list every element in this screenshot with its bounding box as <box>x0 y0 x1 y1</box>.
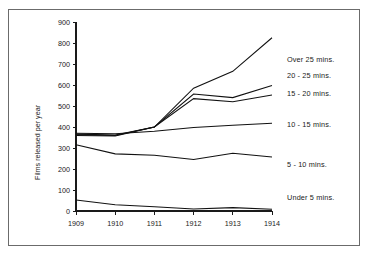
y-tick-label: 700 <box>58 60 70 69</box>
series-line <box>76 85 272 135</box>
legend-item-1: Over 25 mins. <box>287 55 334 64</box>
x-axis-group: 190919101911191219131914 <box>68 211 280 228</box>
y-tick-label: 0 <box>66 207 70 216</box>
x-tick-label: 1910 <box>107 219 123 228</box>
legend-item-2: 20 - 25 mins. <box>287 71 331 80</box>
y-tick-label: 100 <box>58 186 70 195</box>
series-line <box>76 123 272 134</box>
legend-item-6: Under 5 mins. <box>287 193 334 202</box>
legend-item-4: 10 - 15 mins. <box>287 120 331 129</box>
y-tick-label: 400 <box>58 123 70 132</box>
y-axis-title: Films released per year <box>33 104 42 180</box>
y-tick-label: 200 <box>58 165 70 174</box>
y-tick-label: 300 <box>58 144 70 153</box>
series-line <box>76 145 272 160</box>
x-tick-label: 1914 <box>264 219 280 228</box>
data-series-group <box>76 38 272 210</box>
legend-item-3: 15 - 20 mins. <box>287 89 331 98</box>
y-tick-label: 500 <box>58 102 70 111</box>
x-tick-label: 1913 <box>225 219 241 228</box>
y-tick-label: 800 <box>58 39 70 48</box>
y-tick-label: 600 <box>58 81 70 90</box>
x-axis-tick-labels: 190919101911191219131914 <box>68 219 280 228</box>
x-axis-ticks <box>76 211 272 215</box>
y-axis-tick-labels: 0100200300400500600700800900 <box>58 18 70 216</box>
series-line <box>76 200 272 209</box>
x-tick-label: 1912 <box>186 219 202 228</box>
y-tick-label: 900 <box>58 18 70 27</box>
y-axis-group: 0100200300400500600700800900 <box>58 18 76 216</box>
x-tick-label: 1911 <box>147 219 162 228</box>
x-tick-label: 1909 <box>68 219 84 228</box>
series-line <box>76 38 272 136</box>
chart-figure: 0100200300400500600700800900 19091910191… <box>0 0 372 256</box>
legend-item-5: 5 - 10 mins. <box>287 160 327 169</box>
